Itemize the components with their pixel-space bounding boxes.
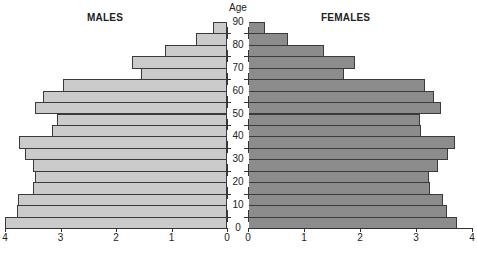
male-x-tick-label: 2 (108, 232, 124, 243)
female-bar-65-69 (248, 68, 344, 80)
female-bar-10-14 (248, 194, 443, 206)
female-bar-5-9 (248, 205, 447, 217)
age-tick (244, 56, 248, 57)
male-bar-60-64 (63, 79, 227, 91)
age-tick (244, 171, 248, 172)
age-tick (227, 148, 231, 149)
female-bar-35-39 (248, 136, 455, 148)
age-tick-label: 30 (227, 153, 249, 164)
females-label: FEMALES (321, 12, 370, 23)
male-bar-15-19 (33, 182, 227, 194)
female-bar-25-29 (248, 159, 438, 171)
female-bar-30-34 (248, 148, 448, 160)
male-bar-50-54 (35, 102, 227, 114)
age-tick (227, 217, 231, 218)
age-tick (227, 125, 231, 126)
female-bar-85-89 (248, 22, 265, 34)
male-x-tick-label: 3 (53, 232, 69, 243)
female-bar-50-54 (248, 102, 441, 114)
age-tick (244, 125, 248, 126)
male-bar-70-74 (132, 56, 227, 68)
female-bar-55-59 (248, 91, 434, 103)
age-tick (227, 33, 231, 34)
population-pyramid-chart: MALES FEMALES Age 0102030405060708090432… (0, 0, 477, 255)
female-bar-20-24 (248, 171, 429, 183)
male-bar-55-59 (43, 91, 227, 103)
female-bar-60-64 (248, 79, 425, 91)
age-tick (244, 194, 248, 195)
female-bar-40-44 (248, 125, 421, 137)
male-x-tick-label: 0 (219, 232, 235, 243)
male-bar-35-39 (19, 136, 227, 148)
male-bar-20-24 (35, 171, 227, 183)
male-bar-40-44 (52, 125, 227, 137)
age-tick (227, 171, 231, 172)
female-bar-70-74 (248, 56, 355, 68)
age-tick-label: 90 (227, 16, 249, 27)
age-tick (244, 33, 248, 34)
age-tick-label: 20 (227, 176, 249, 187)
female-x-tick-label: 3 (408, 232, 424, 243)
female-x-tick-label: 0 (240, 232, 256, 243)
age-tick-label: 40 (227, 130, 249, 141)
male-bar-10-14 (18, 194, 227, 206)
age-tick-label: 60 (227, 85, 249, 96)
age-tick (244, 79, 248, 80)
males-label: MALES (87, 12, 123, 23)
female-x-tick-label: 4 (464, 232, 477, 243)
age-tick (227, 79, 231, 80)
female-bar-45-49 (248, 114, 420, 126)
age-tick-label: 10 (227, 199, 249, 210)
female-x-tick-label: 1 (296, 232, 312, 243)
female-bar-15-19 (248, 182, 430, 194)
female-bar-80-84 (248, 33, 288, 45)
female-bar-75-79 (248, 45, 324, 57)
male-bar-75-79 (165, 45, 227, 57)
age-tick (244, 102, 248, 103)
age-tick (244, 217, 248, 218)
male-bar-80-84 (196, 33, 227, 45)
male-bar-85-89 (213, 22, 227, 34)
age-tick-label: 70 (227, 62, 249, 73)
female-x-tick-label: 2 (352, 232, 368, 243)
age-tick (227, 102, 231, 103)
male-bar-30-34 (25, 148, 227, 160)
male-x-tick-label: 4 (0, 232, 13, 243)
male-bar-25-29 (33, 159, 227, 171)
female-vertical-axis (248, 22, 249, 228)
age-axis-label: Age (222, 2, 254, 13)
male-bar-65-69 (141, 68, 227, 80)
age-tick (227, 56, 231, 57)
age-tick (227, 194, 231, 195)
age-tick (244, 148, 248, 149)
age-tick-label: 50 (227, 108, 249, 119)
male-bar-5-9 (17, 205, 227, 217)
age-tick-label: 80 (227, 39, 249, 50)
male-bar-45-49 (57, 114, 227, 126)
male-x-tick-label: 1 (164, 232, 180, 243)
